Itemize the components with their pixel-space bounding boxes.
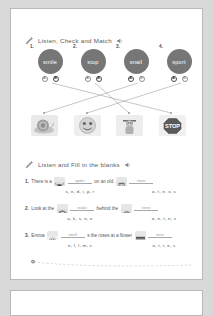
- worksheet-viewport: Listen, Check and Match 1. smile A B: [0, 0, 213, 316]
- footer-decoration: [29, 255, 190, 263]
- pencil-icon: [25, 155, 34, 173]
- fill-question-2: 2. Look at the snake behind the: [25, 204, 195, 228]
- letter-bank-1b: o, t, e, v, s: [139, 189, 189, 194]
- speaker-icon[interactable]: [124, 155, 132, 173]
- question-text-before: Look at the: [31, 206, 54, 211]
- question-text-middle: behind the: [97, 206, 118, 211]
- section-heading-fill: Listen and Fill in the blanks: [25, 155, 132, 173]
- snake-picture[interactable]: [57, 204, 68, 213]
- question-text-middle: s the roses at a flower: [87, 233, 132, 238]
- blank-slot-2a[interactable]: snake: [70, 206, 94, 212]
- blank-slot-1a[interactable]: spider: [68, 179, 92, 185]
- smell-picture[interactable]: [47, 231, 58, 240]
- blank-slot-1b[interactable]: stove: [129, 179, 153, 185]
- letter-bank-3b: o, t, r, e, s: [139, 243, 189, 248]
- question-text-before: There is a: [31, 179, 51, 184]
- worksheet-page: Listen, Check and Match 1. smile A B: [10, 8, 203, 280]
- blank-slot-3b[interactable]: store: [148, 233, 172, 239]
- question-text-middle: on an old: [94, 179, 113, 184]
- question-number: 2.: [25, 206, 29, 211]
- flower-icon: [31, 260, 35, 264]
- spider-picture[interactable]: [54, 177, 65, 186]
- svg-text:STOP: STOP: [165, 123, 180, 129]
- letter-bank-1a: s, e, d, i, p, r: [55, 189, 105, 194]
- question-number: 1.: [25, 179, 29, 184]
- letter-bank-3a: e, l, l, m, s: [55, 243, 105, 248]
- next-page-edge: [10, 290, 203, 316]
- question-number: 3.: [25, 233, 29, 238]
- snail-picture[interactable]: [31, 115, 58, 136]
- sport-picture[interactable]: [116, 115, 143, 136]
- stove-picture[interactable]: [116, 177, 127, 186]
- blank-slot-2b[interactable]: stone: [134, 206, 158, 212]
- blank-slot-3a[interactable]: smell: [61, 233, 85, 239]
- question-text-before: Emma: [31, 233, 44, 238]
- letter-bank-2b: o, e, t, n, s: [139, 216, 189, 221]
- stop-picture[interactable]: STOP: [159, 115, 186, 136]
- smile-picture[interactable]: [74, 115, 101, 136]
- section-heading-text: Listen and Fill in the blanks: [38, 161, 120, 168]
- fill-question-3: 3. Emma smell s the roses at a flower: [25, 231, 195, 255]
- letter-bank-2a: a, k, s, n, e: [55, 216, 105, 221]
- fill-question-1: 1. There is a spider on an o: [25, 177, 195, 201]
- store-picture[interactable]: [135, 231, 146, 240]
- stone-picture[interactable]: [121, 204, 132, 213]
